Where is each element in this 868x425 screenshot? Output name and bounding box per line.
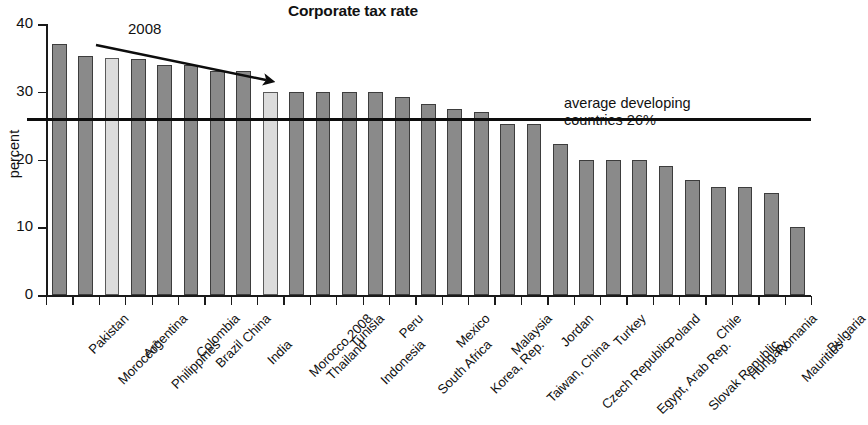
- x-axis-tick: [415, 296, 416, 305]
- x-axis-tick: [811, 296, 812, 305]
- x-axis-label: India: [264, 337, 294, 367]
- x-axis-tick: [231, 296, 232, 305]
- x-axis-tick: [72, 296, 73, 305]
- average-line-label-line2: countries 26%: [564, 112, 691, 129]
- bar: [342, 92, 357, 295]
- bar: [447, 109, 462, 295]
- x-axis-label: Peru: [396, 311, 426, 341]
- bar: [421, 104, 436, 295]
- bar: [316, 92, 331, 295]
- x-axis-tick: [574, 296, 575, 305]
- y-axis-tick-label: 0: [25, 285, 33, 302]
- x-axis-label: Bulgaria: [824, 311, 868, 355]
- bar: [289, 92, 304, 295]
- x-axis-tick: [758, 296, 759, 305]
- bar: [659, 166, 674, 295]
- x-axis-tick: [442, 296, 443, 305]
- bar: [606, 160, 621, 296]
- x-axis-label: Pakistan: [86, 311, 132, 357]
- x-axis-label: Jordan: [558, 311, 597, 350]
- plot-area: [46, 24, 811, 295]
- bar: [790, 227, 805, 295]
- x-axis-tick: [468, 296, 469, 305]
- bar: [157, 65, 172, 295]
- x-axis-tick: [310, 296, 311, 305]
- bar: [263, 92, 278, 295]
- x-axis-tick: [99, 296, 100, 305]
- x-axis-tick: [600, 296, 601, 305]
- x-axis-tick: [547, 296, 548, 305]
- x-axis-tick: [389, 296, 390, 305]
- bar: [210, 71, 225, 295]
- x-axis-tick: [125, 296, 126, 305]
- bar: [711, 187, 726, 295]
- bar: [474, 112, 489, 295]
- bar: [131, 59, 146, 295]
- x-axis-label: Argentina: [140, 311, 190, 361]
- bar: [738, 187, 753, 295]
- bar: [500, 124, 515, 295]
- x-axis-tick: [626, 296, 627, 305]
- x-axis-tick: [152, 296, 153, 305]
- y-axis-tick-label: 30: [16, 82, 33, 99]
- bar: [685, 180, 700, 295]
- x-axis-tick: [785, 296, 786, 305]
- bar: [579, 160, 594, 296]
- bar: [184, 65, 199, 295]
- bar: [236, 71, 251, 295]
- x-axis-label: Taiwan, China: [544, 337, 612, 405]
- x-axis-label: Indonesia: [378, 337, 428, 387]
- average-line-label-line1: average developing: [564, 95, 691, 112]
- bar: [395, 97, 410, 295]
- x-axis-label: Chile: [713, 311, 745, 343]
- x-axis-tick: [521, 296, 522, 305]
- x-axis-tick: [178, 296, 179, 305]
- average-line-label: average developing countries 26%: [564, 95, 691, 129]
- x-axis-label: Romania: [772, 311, 819, 358]
- x-axis-tick: [679, 296, 680, 305]
- average-line: [27, 118, 811, 121]
- bar: [52, 44, 67, 295]
- x-axis-tick: [732, 296, 733, 305]
- bar: [632, 160, 647, 296]
- x-axis-tick: [336, 296, 337, 305]
- x-axis-line: [46, 295, 811, 297]
- annotation-2008-label: 2008: [128, 20, 161, 37]
- x-axis-tick: [283, 296, 284, 305]
- x-axis-tick: [257, 296, 258, 305]
- bar: [78, 56, 93, 295]
- x-axis-label: Turkey: [610, 311, 648, 349]
- x-axis-tick: [204, 296, 205, 305]
- x-axis-tick: [653, 296, 654, 305]
- x-axis-label: Poland: [663, 311, 702, 350]
- x-axis-label: China: [239, 311, 274, 346]
- bar: [553, 144, 568, 295]
- bar: [527, 124, 542, 295]
- x-axis-tick: [494, 296, 495, 305]
- bar: [368, 92, 383, 295]
- x-axis-labels: PakistanMoroccoaArgentinaPhilippinesColo…: [0, 305, 816, 425]
- chart-title: Corporate tax rate: [288, 2, 418, 20]
- x-axis-tick: [46, 296, 47, 305]
- y-axis-tick-label: 20: [16, 150, 33, 167]
- y-axis-tick-label: 40: [16, 14, 33, 31]
- bar: [764, 193, 779, 295]
- x-axis-tick: [705, 296, 706, 305]
- y-axis-tick-label: 10: [16, 217, 33, 234]
- bar: [105, 58, 120, 295]
- x-axis-tick: [363, 296, 364, 305]
